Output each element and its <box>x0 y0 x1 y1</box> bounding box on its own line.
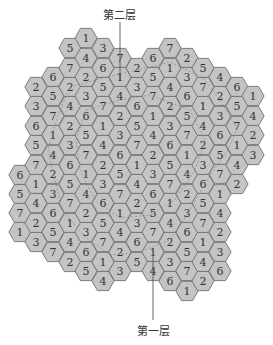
cell-number: 5 <box>200 62 207 75</box>
hex-cluster-diagram: 6571236571423657142365757242365714214236… <box>0 0 273 345</box>
cell-number: 2 <box>50 168 57 181</box>
cell-number: 3 <box>184 71 191 84</box>
cell-number: 7 <box>167 42 174 55</box>
cell-number: 2 <box>33 217 40 230</box>
cell-number: 3 <box>50 188 57 201</box>
cell-number: 4 <box>67 100 74 113</box>
cell-number: 6 <box>167 275 174 288</box>
cell-number: 6 <box>100 197 107 210</box>
cell-number: 4 <box>100 139 107 152</box>
cell-number: 1 <box>184 149 191 162</box>
cell-number: 1 <box>50 129 57 142</box>
hex-cells: 6571236571423657142365757242365714214236… <box>9 28 264 300</box>
cell-number: 3 <box>117 129 124 142</box>
cell-number: 2 <box>200 275 207 288</box>
cell-number: 2 <box>117 246 124 259</box>
cell-number: 3 <box>83 226 90 239</box>
cell-number: 3 <box>100 178 107 191</box>
cell-number: 4 <box>250 110 257 123</box>
cell-number: 2 <box>83 71 90 84</box>
cell-number: 3 <box>217 246 224 259</box>
cell-number: 7 <box>167 178 174 191</box>
cell-number: 1 <box>200 236 207 249</box>
cell-number: 4 <box>167 217 174 230</box>
cell-number: 5 <box>100 217 107 230</box>
cell-number: 7 <box>33 159 40 172</box>
cell-number: 6 <box>217 129 224 142</box>
cell-number: 6 <box>217 265 224 278</box>
cell-number: 5 <box>134 256 141 269</box>
cell-number: 1 <box>134 159 141 172</box>
cell-number: 7 <box>50 246 57 259</box>
cell-number: 7 <box>100 100 107 113</box>
cell-number: 1 <box>217 188 224 201</box>
cell-number: 6 <box>134 100 141 113</box>
cell-number: 1 <box>100 120 107 133</box>
cell-number: 6 <box>83 110 90 123</box>
cell-number: 3 <box>33 236 40 249</box>
cell-number: 4 <box>50 149 57 162</box>
cell-number: 2 <box>167 236 174 249</box>
cell-number: 3 <box>200 159 207 172</box>
cell-number: 2 <box>134 197 141 210</box>
cell-number: 5 <box>200 197 207 210</box>
cell-number: 4 <box>167 81 174 94</box>
cell-number: 7 <box>184 129 191 142</box>
cell-number: 6 <box>83 246 90 259</box>
cell-number: 1 <box>150 110 157 123</box>
cell-number: 7 <box>67 62 74 75</box>
cell-number: 5 <box>100 81 107 94</box>
cell-number: 4 <box>33 197 40 210</box>
cell-number: 4 <box>217 71 224 84</box>
cell-number: 3 <box>67 139 74 152</box>
cell-number: 4 <box>67 236 74 249</box>
cell-number: 2 <box>83 207 90 220</box>
cell-number: 5 <box>83 265 90 278</box>
cell-number: 5 <box>67 178 74 191</box>
cell-number: 2 <box>134 62 141 75</box>
cell-number: 3 <box>167 256 174 269</box>
cell-number: 6 <box>234 81 241 94</box>
cell-number: 3 <box>134 217 141 230</box>
cell-number: 7 <box>67 197 74 210</box>
cell-number: 5 <box>217 149 224 162</box>
cell-number: 7 <box>200 217 207 230</box>
cell-number: 5 <box>50 90 57 103</box>
cell-number: 6 <box>33 120 40 133</box>
cell-number: 1 <box>234 139 241 152</box>
cell-number: 7 <box>184 265 191 278</box>
cell-number: 5 <box>67 42 74 55</box>
cell-number: 3 <box>134 81 141 94</box>
cell-number: 4 <box>150 129 157 142</box>
cell-number: 5 <box>150 207 157 220</box>
cell-number: 2 <box>184 188 191 201</box>
cell-number: 4 <box>117 226 124 239</box>
cell-number: 3 <box>250 149 257 162</box>
cell-number: 2 <box>117 110 124 123</box>
cell-number: 7 <box>234 120 241 133</box>
cell-number: 7 <box>217 168 224 181</box>
cell-number: 7 <box>150 226 157 239</box>
cell-number: 7 <box>50 110 57 123</box>
cell-number: 5 <box>134 120 141 133</box>
cell-number: 7 <box>83 149 90 162</box>
cell-number: 3 <box>33 100 40 113</box>
cell-number: 3 <box>117 265 124 278</box>
cell-number: 4 <box>200 120 207 133</box>
cell-number: 4 <box>83 188 90 201</box>
label-second-layer: 第二层 <box>103 6 136 22</box>
cell-number: 2 <box>184 52 191 65</box>
cell-number: 2 <box>33 81 40 94</box>
cell-number: 1 <box>184 285 191 298</box>
cell-number: 5 <box>184 246 191 259</box>
cell-number: 5 <box>234 100 241 113</box>
cell-number: 1 <box>167 197 174 210</box>
cell-number: 1 <box>100 256 107 269</box>
cell-number: 1 <box>17 226 24 239</box>
cell-number: 4 <box>83 52 90 65</box>
cell-number: 1 <box>200 100 207 113</box>
cell-number: 4 <box>134 178 141 191</box>
cell-number: 2 <box>217 226 224 239</box>
cell-number: 5 <box>83 129 90 142</box>
cell-number: 4 <box>217 207 224 220</box>
